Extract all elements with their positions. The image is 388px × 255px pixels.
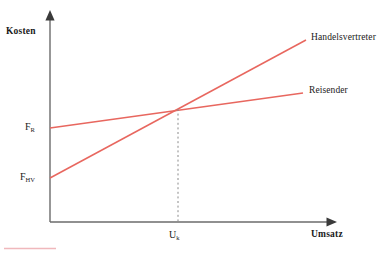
- f-hv-base: F: [20, 171, 26, 182]
- x-axis-title: Umsatz: [311, 230, 343, 240]
- y-axis-arrow-icon: [45, 10, 54, 21]
- break-even-chart: Kosten Umsatz Handelsvertreter Reisender…: [0, 0, 388, 255]
- f-r-subscript: R: [31, 126, 35, 133]
- x-axis-arrow-icon: [327, 217, 338, 226]
- f-r-base: F: [25, 121, 31, 132]
- y-axis-title: Kosten: [6, 27, 36, 37]
- u-k-subscript: k: [176, 234, 179, 241]
- f-hv-subscript: HV: [26, 176, 36, 183]
- series-label-handelsvertreter: Handelsvertreter: [311, 33, 376, 43]
- series-label-reisender: Reisender: [309, 86, 348, 96]
- x-tick-label-kritischer-umsatz: Uk: [169, 230, 180, 240]
- y-tick-label-fixkosten-reisender: FR: [25, 122, 35, 132]
- y-tick-label-fixkosten-handelsvertreter: FHV: [20, 172, 35, 182]
